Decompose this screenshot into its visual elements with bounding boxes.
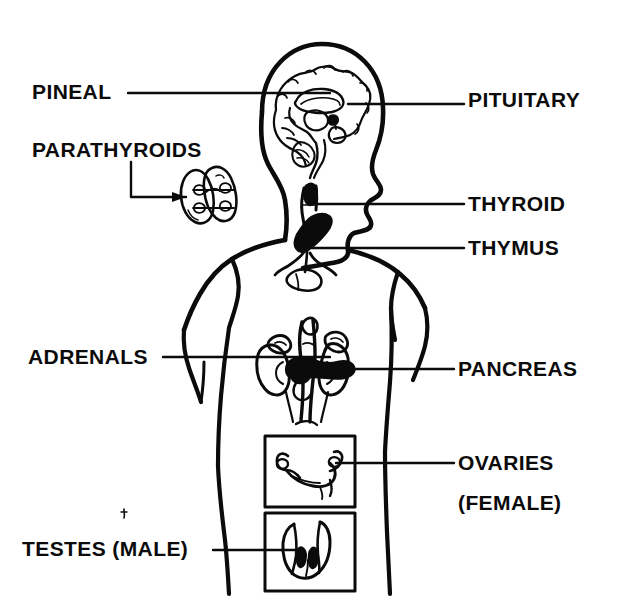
label-pituitary: PITUITARY <box>468 89 580 110</box>
label-ovaries-sub: (FEMALE) <box>458 492 562 513</box>
label-thyroid: THYROID <box>468 193 565 214</box>
endocrine-diagram-page: PINEAL PARATHYROIDS PITUITARY THYROID TH… <box>0 0 621 612</box>
label-pineal: PINEAL <box>32 81 111 102</box>
label-parathyroids: PARATHYROIDS <box>32 139 202 160</box>
label-adrenals: ADRENALS <box>28 346 148 367</box>
label-thymus: THYMUS <box>468 237 559 258</box>
label-testes: TESTES (MALE) <box>22 538 188 559</box>
label-ovaries: OVARIES <box>458 452 554 473</box>
label-pancreas: PANCREAS <box>458 358 578 379</box>
